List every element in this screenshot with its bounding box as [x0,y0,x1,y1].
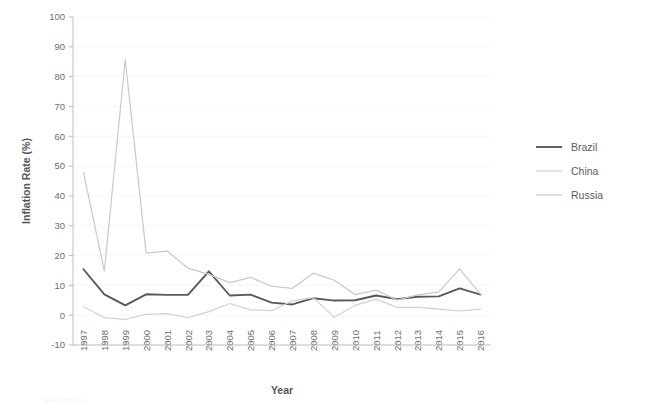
x-tick-label: 2004 [224,330,235,351]
y-tick-label: 0 [60,310,65,321]
x-tick-label: 2011 [371,331,382,351]
x-tick-label: 2007 [287,330,298,351]
x-tick-label: 2006 [266,330,277,351]
series-line-china [83,298,480,320]
x-tick-label: 2002 [183,330,194,351]
y-tick-label: -10 [51,339,65,350]
chart-footnote: 1997-2016 [44,397,82,403]
data-series-group [83,60,480,320]
y-tick-label: 40 [54,190,65,201]
x-tick-label: 1997 [78,330,89,351]
y-tick-label: 20 [54,250,65,261]
y-axis-ticks-group: -100102030405060708090100 [49,11,73,350]
y-tick-label: 60 [54,131,65,142]
y-tick-label: 90 [54,41,65,52]
x-tick-label: 1998 [99,330,110,351]
x-tick-label: 2008 [308,330,319,351]
legend-label-china: China [571,165,599,177]
x-tick-label: 2000 [141,330,152,351]
x-tick-label: 2001 [162,330,173,351]
legend-label-brazil: Brazil [571,141,597,153]
x-tick-label: 2016 [475,330,486,351]
inflation-rate-line-chart: -100102030405060708090100 19971998199920… [0,0,650,403]
x-tick-label: 2005 [245,330,256,351]
y-tick-label: 30 [54,220,65,231]
legend-label-russia: Russia [571,189,603,201]
y-tick-label: 70 [54,101,65,112]
y-axis-title: Inflation Rate (%) [20,138,32,224]
series-line-russia [83,60,480,300]
y-tick-label: 80 [54,71,65,82]
chart-canvas: -100102030405060708090100 19971998199920… [0,0,650,403]
x-tick-label: 2009 [329,330,340,351]
y-tick-label: 50 [54,160,65,171]
x-tick-label: 2015 [454,330,465,351]
x-tick-label: 2012 [392,330,403,351]
legend: BrazilChinaRussia [536,141,603,201]
x-tick-label: 2013 [412,330,423,351]
x-axis-ticks-group: 1997199819992000200120022003200420052006… [78,330,486,351]
x-tick-label: 1999 [120,330,131,351]
y-tick-label: 100 [49,11,65,22]
y-tick-label: 10 [54,280,65,291]
x-axis-title: Year [271,384,293,396]
x-tick-label: 2003 [203,330,214,351]
x-tick-label: 2010 [350,330,361,351]
x-tick-label: 2014 [433,330,444,351]
